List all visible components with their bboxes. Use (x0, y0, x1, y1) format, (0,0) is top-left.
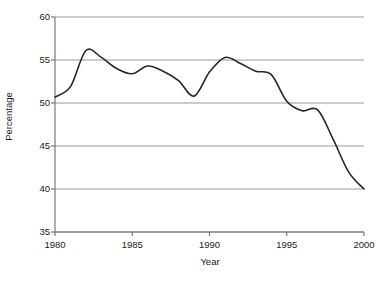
line-chart: Percentage Year 354045505560 19801985199… (0, 0, 387, 281)
y-tick-label-50: 50 (24, 98, 50, 108)
y-tick-label-45: 45 (24, 141, 50, 151)
x-tick-label-1980: 1980 (35, 240, 75, 250)
y-tick-label-55: 55 (24, 55, 50, 65)
series-line-0 (55, 49, 364, 189)
x-tick-label-1990: 1990 (190, 240, 230, 250)
y-tick-label-35: 35 (24, 227, 50, 237)
x-tick-label-1985: 1985 (112, 240, 152, 250)
x-axis-label-text: Year (55, 256, 365, 267)
y-tick-label-60: 60 (24, 12, 50, 22)
y-axis-label: Percentage (0, 0, 16, 232)
x-tick-label-1995: 1995 (267, 240, 307, 250)
x-tick-label-2000: 2000 (344, 240, 384, 250)
y-tick-label-40: 40 (24, 184, 50, 194)
y-axis-label-text: Percentage (3, 92, 14, 141)
